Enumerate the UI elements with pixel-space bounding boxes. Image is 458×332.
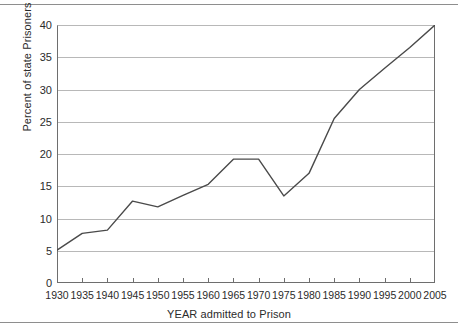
y-tick-label: 35 [30, 52, 52, 63]
y-tick-label: 5 [30, 245, 52, 256]
bottom-divider-rule [0, 322, 458, 323]
chart-figure: Percent of state Prisoners 0510152025303… [0, 0, 458, 332]
x-tick-label: 1995 [373, 290, 396, 301]
x-tick-label: 1950 [146, 290, 169, 301]
y-tick-label: 25 [30, 116, 52, 127]
x-tick-label: 1960 [197, 290, 220, 301]
x-axis-title: YEAR admitted to Prison [0, 308, 458, 320]
x-tick-label: 1955 [171, 290, 194, 301]
y-tick-label: 0 [30, 278, 52, 289]
y-tick-label: 10 [30, 213, 52, 224]
x-tick-label: 1930 [45, 290, 68, 301]
y-tick-label: 30 [30, 84, 52, 95]
data-series-line [57, 25, 435, 250]
x-tick-label: 2000 [398, 290, 421, 301]
x-tick-label: 1980 [297, 290, 320, 301]
y-tick-label: 15 [30, 181, 52, 192]
x-axis-ticks [58, 278, 435, 283]
x-tick-label: 1990 [348, 290, 371, 301]
plot-area: 0510152025303540 19301935194019451950195… [57, 25, 435, 283]
x-tick-label: 1935 [71, 290, 94, 301]
x-tick-label: 2005 [423, 290, 446, 301]
y-tick-label: 40 [30, 20, 52, 31]
x-tick-label: 1940 [96, 290, 119, 301]
x-tick-label: 1945 [121, 290, 144, 301]
x-tick-label: 1970 [247, 290, 270, 301]
top-divider-rule [0, 4, 458, 5]
x-tick-label: 1985 [323, 290, 346, 301]
x-tick-label: 1965 [222, 290, 245, 301]
x-tick-label: 1975 [272, 290, 295, 301]
line-chart-svg [57, 25, 435, 283]
y-tick-label: 20 [30, 149, 52, 160]
